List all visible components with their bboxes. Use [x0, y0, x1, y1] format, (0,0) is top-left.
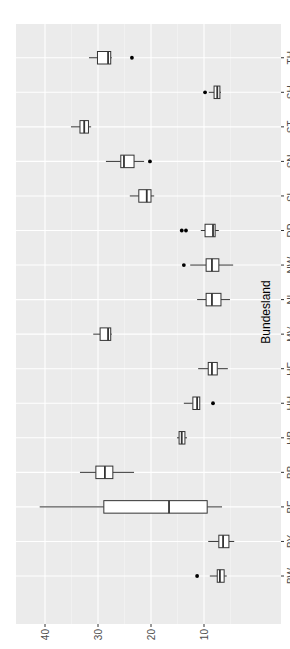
outlier-point — [130, 56, 134, 60]
category-tick-label: BW — [286, 567, 290, 584]
category-tick-label: RP — [286, 223, 290, 237]
outlier-point — [180, 229, 184, 233]
outlier-point — [203, 90, 207, 94]
category-tick-label: NI — [286, 295, 290, 305]
category-tick-label: MV — [286, 326, 290, 341]
outlier-point — [184, 229, 188, 233]
value-tick-label: 10 — [199, 629, 210, 641]
iqr-box — [121, 155, 134, 168]
category-tick-label: BY — [286, 534, 290, 548]
category-tick-label: SN — [286, 154, 290, 168]
outlier-point — [195, 574, 199, 578]
category-tick-label: BB — [286, 465, 290, 479]
axis-title-bundesland: Bundesland — [259, 280, 273, 343]
category-tick-label: NW — [286, 256, 290, 273]
value-axis-ticks: 10203040 — [40, 624, 210, 640]
value-tick-label: 40 — [40, 629, 51, 641]
boxplot-chart: 10203040 BWBYBEBBHBHHHEMVNINWRPSLSNSTSHT… — [0, 0, 290, 649]
value-tick-label: 20 — [146, 629, 157, 641]
category-tick-label: HB — [286, 431, 290, 445]
iqr-box — [104, 501, 207, 514]
category-tick-label: SL — [286, 189, 290, 202]
outlier-point — [182, 263, 186, 267]
iqr-box — [206, 293, 221, 306]
category-tick-label: BE — [286, 500, 290, 514]
iqr-box — [100, 328, 111, 341]
category-tick-label: SH — [286, 85, 290, 99]
plot-panel — [16, 24, 281, 624]
category-tick-label: TH — [286, 51, 290, 64]
value-tick-label: 30 — [93, 629, 104, 641]
outlier-point — [148, 160, 152, 164]
outlier-point — [211, 401, 215, 405]
category-tick-label: HH — [286, 396, 290, 410]
iqr-box — [139, 190, 151, 203]
category-tick-label: ST — [286, 120, 290, 133]
category-tick-label: HE — [286, 361, 290, 375]
category-axis-ticks: BWBYBEBBHBHHHEMVNINWRPSLSNSTSHTH — [281, 51, 290, 584]
